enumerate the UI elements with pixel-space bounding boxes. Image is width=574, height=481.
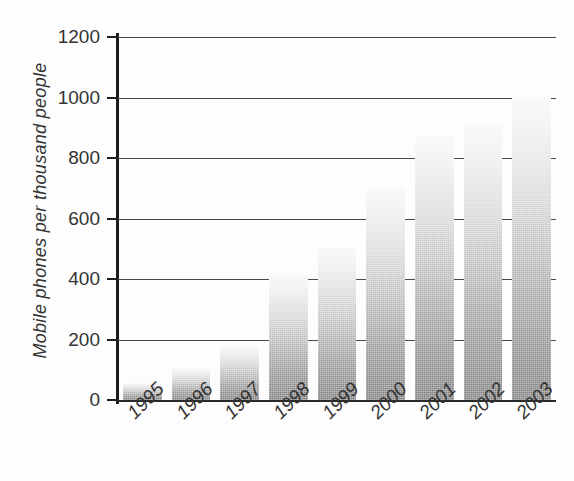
y-tick-label-200: 200 — [40, 329, 100, 351]
bar-2001 — [415, 135, 454, 400]
bar-2003 — [512, 98, 551, 401]
bar-2000 — [366, 188, 405, 400]
y-tick-label-600: 600 — [40, 208, 100, 230]
gridline-1000 — [118, 98, 556, 99]
gridline-1200 — [118, 37, 556, 38]
y-tick-label-1200: 1200 — [40, 26, 100, 48]
y-tick-label-0: 0 — [40, 389, 100, 411]
y-tick-label-800: 800 — [40, 147, 100, 169]
bar-1999 — [318, 247, 357, 400]
y-tick-label-400: 400 — [40, 268, 100, 290]
plot-area — [118, 37, 556, 400]
y-tick-label-1000: 1000 — [40, 87, 100, 109]
bar-2002 — [464, 125, 503, 400]
mobile-phones-bar-chart: Mobile phones per thousand people 020040… — [0, 0, 574, 481]
